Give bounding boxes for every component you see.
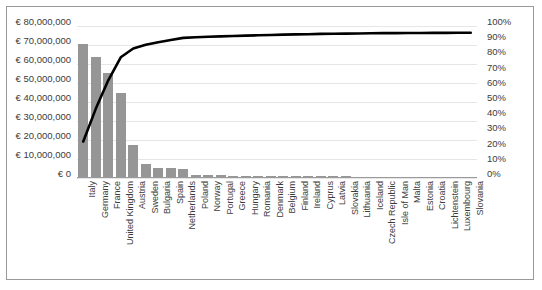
- category-label: Romania: [262, 181, 272, 277]
- category-label: Greece: [237, 181, 247, 277]
- y-tick-left: € 50,000,000: [16, 73, 71, 84]
- category-label: Austria: [137, 181, 147, 277]
- y-tick-left: € 70,000,000: [16, 35, 71, 46]
- y-tick-left: € 10,000,000: [16, 149, 71, 160]
- axis-baseline: [77, 177, 477, 178]
- category-label: Iceland: [375, 181, 385, 277]
- y-tick-right: 40%: [487, 107, 506, 118]
- category-label: Isle of Man: [400, 181, 410, 277]
- category-label: Netherlands: [187, 181, 197, 277]
- category-label: Finland: [300, 181, 310, 277]
- category-label: Sweden: [150, 181, 160, 277]
- y-tick-left: € 30,000,000: [16, 111, 71, 122]
- category-labels: ItalyGermanyFranceUnited KingdomAustriaS…: [77, 181, 477, 279]
- category-label: Portugal: [225, 181, 235, 277]
- category-label: Bulgaria: [162, 181, 172, 277]
- y-tick-left: € 0: [58, 168, 71, 179]
- category-label: United Kingdom: [125, 181, 135, 277]
- y-tick-left: € 40,000,000: [16, 92, 71, 103]
- category-label: Poland: [200, 181, 210, 277]
- pareto-chart-container: € 80,000,000€ 70,000,000€ 60,000,000€ 50…: [6, 6, 534, 280]
- y-tick-right: 10%: [487, 153, 506, 164]
- y-tick-right: 70%: [487, 62, 506, 73]
- y-tick-left: € 20,000,000: [16, 130, 71, 141]
- chart-title: [7, 2, 533, 8]
- category-label: Belgium: [287, 181, 297, 277]
- y-tick-left: € 60,000,000: [16, 54, 71, 65]
- category-label: Lithuania: [362, 181, 372, 277]
- y-tick-right: 100%: [487, 16, 511, 27]
- category-label: France: [112, 181, 122, 277]
- category-label: Croatia: [437, 181, 447, 277]
- category-label: Cyprus: [325, 181, 335, 277]
- category-label: Denmark: [275, 181, 285, 277]
- category-label: Czech Republic: [387, 181, 397, 277]
- category-label: Hungary: [250, 181, 260, 277]
- y-tick-right: 0%: [487, 168, 501, 179]
- category-label: Estonia: [425, 181, 435, 277]
- category-label: Ireland: [312, 181, 322, 277]
- category-label: Latvia: [337, 181, 347, 277]
- category-label: Slovakia: [350, 181, 360, 277]
- category-label: Norway: [212, 181, 222, 277]
- y-tick-right: 80%: [487, 46, 506, 57]
- y-tick-right: 30%: [487, 122, 506, 133]
- y-tick-right: 20%: [487, 138, 506, 149]
- cumulative-line: [83, 33, 471, 142]
- category-label: Germany: [100, 181, 110, 277]
- category-label: Luxembourg: [462, 181, 472, 277]
- y-tick-right: 90%: [487, 31, 506, 42]
- plot-area: [77, 26, 477, 178]
- cumulative-line-series: [77, 26, 477, 178]
- category-label: Spain: [175, 181, 185, 277]
- y-tick-right: 60%: [487, 77, 506, 88]
- category-label: Italy: [87, 181, 97, 277]
- category-label: Malta: [412, 181, 422, 277]
- category-label: Lichtenstein: [450, 181, 460, 277]
- category-label: Slovania: [475, 181, 485, 277]
- y-tick-left: € 80,000,000: [16, 16, 71, 27]
- gridline: [77, 178, 477, 179]
- y-tick-right: 50%: [487, 92, 506, 103]
